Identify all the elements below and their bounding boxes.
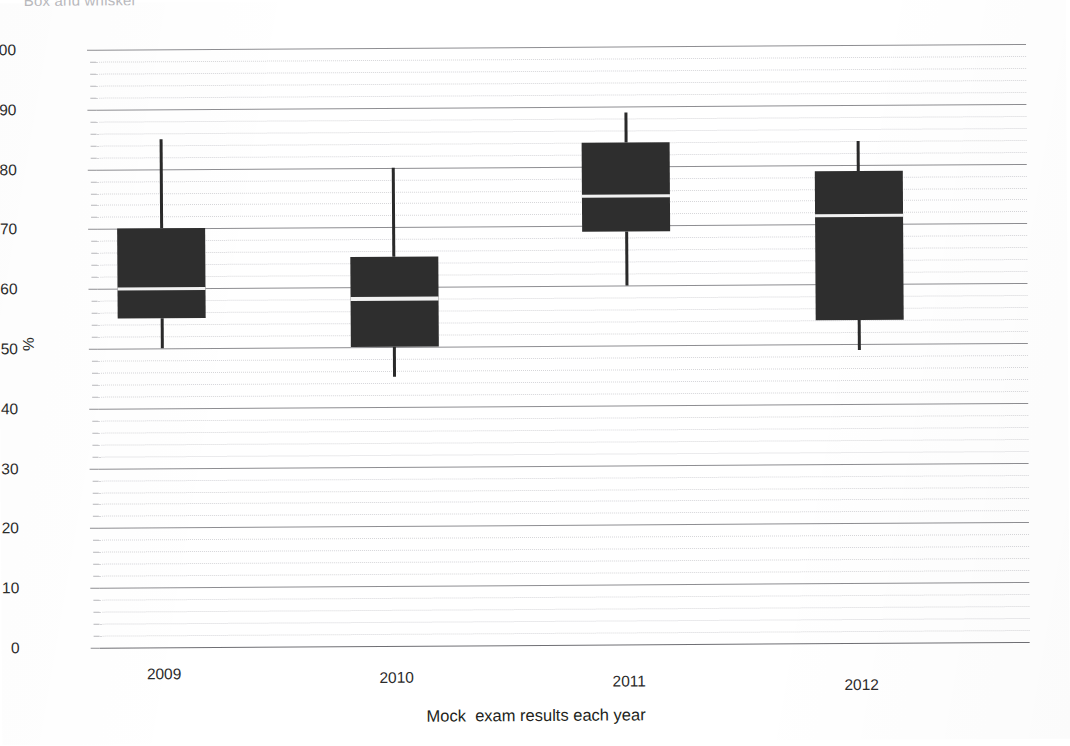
y-axis-tick-mark [91, 265, 97, 266]
y-axis-tick-mark [93, 600, 99, 601]
box-plot-2009 [116, 49, 208, 648]
median-line [815, 213, 903, 217]
y-axis-tick-mark [91, 145, 97, 146]
y-axis-tick-label: 20 [0, 520, 19, 538]
whisker-lower [625, 232, 628, 286]
y-axis-tick-mark [91, 133, 97, 134]
y-axis-tick-mark [91, 181, 97, 182]
whisker-upper [857, 141, 860, 171]
box-iqr [815, 170, 904, 320]
y-axis-tick-mark [88, 169, 97, 170]
y-axis-tick-mark [90, 86, 96, 87]
page-title: Box and whisker [24, 0, 137, 6]
y-axis-tick-mark [90, 62, 96, 63]
y-axis-tick-mark [92, 325, 98, 326]
median-line [118, 287, 206, 291]
whisker-upper [392, 167, 395, 257]
x-axis-tick-labels: 2009201020112012 [0, 0, 1066, 3]
y-axis-tick-mark [92, 444, 98, 445]
x-axis-tick-label: 2011 [612, 672, 645, 690]
y-axis-tick-label: 30 [0, 460, 19, 478]
box-plot-2010 [349, 48, 441, 647]
scanned-chart-page: Box and whisker % 0102030405060708090100… [0, 0, 1070, 745]
y-axis-tick-mark [90, 74, 96, 75]
y-axis-tick-mark [90, 468, 99, 469]
y-axis-tick-label: 60 [0, 280, 18, 298]
y-axis-tick-mark [89, 408, 98, 409]
y-axis-tick-mark [90, 588, 99, 589]
y-axis-tick-mark [92, 361, 98, 362]
y-axis-tick-mark [94, 624, 100, 625]
y-axis-tick-mark [93, 552, 99, 553]
y-axis-tick-mark [88, 289, 97, 290]
y-axis-tick-label: 40 [0, 400, 18, 418]
y-axis-tick-mark [93, 576, 99, 577]
y-axis-tick-label: 90 [0, 101, 16, 119]
y-axis-tick-mark [92, 301, 98, 302]
y-axis-tick-mark [92, 337, 98, 338]
y-axis-tick-mark [93, 456, 99, 457]
y-axis-tick-label: 100 [0, 41, 16, 59]
y-axis-tick-mark [93, 480, 99, 481]
whisker-lower [858, 320, 861, 350]
x-axis-tick-label: 2009 [147, 665, 182, 683]
x-axis-title: Mock exam results each year [2, 703, 1070, 729]
median-line [350, 297, 438, 301]
y-axis-tick-mark [89, 349, 98, 350]
y-axis-tick-label: 0 [0, 639, 20, 657]
y-axis-tick-mark [91, 253, 97, 254]
y-axis-tick-mark [92, 432, 98, 433]
box-iqr [117, 228, 206, 318]
y-axis-tick-mark [90, 97, 96, 98]
y-axis-tick-mark [91, 205, 97, 206]
y-axis-tick-label: 70 [0, 221, 17, 239]
box-plot-2011 [581, 46, 673, 645]
y-axis-tick-label: 10 [0, 579, 19, 597]
y-axis-tick-mark [91, 193, 97, 194]
box-plot-2012 [814, 45, 906, 644]
y-axis-tick-mark [92, 313, 98, 314]
y-axis-tick-mark [91, 157, 97, 158]
whisker-lower [393, 347, 396, 377]
y-axis-tick-mark [87, 50, 96, 51]
gridline-major [100, 642, 1030, 649]
y-axis-title: % [20, 337, 38, 351]
box-iqr [350, 257, 439, 347]
y-axis-tick-mark [93, 564, 99, 565]
y-axis-tick-mark [88, 229, 97, 230]
y-axis-tick-mark [93, 504, 99, 505]
y-axis-tick-mark [91, 217, 97, 218]
y-axis-tick-mark [92, 396, 98, 397]
whisker-lower [161, 318, 164, 348]
y-axis-tick-mark [91, 277, 97, 278]
plot-area: 0102030405060708090100 [96, 44, 1030, 648]
whisker-upper [160, 139, 163, 229]
y-axis-tick-mark [91, 648, 100, 649]
y-axis-tick-mark [90, 121, 96, 122]
y-axis-tick-mark [94, 636, 100, 637]
y-axis-tick-mark [92, 385, 98, 386]
y-axis-tick-label: 80 [0, 161, 17, 179]
x-axis-tick-label: 2012 [844, 676, 879, 694]
y-axis-tick-mark [87, 109, 96, 110]
y-axis-tick-mark [93, 540, 99, 541]
y-axis-tick-mark [91, 241, 97, 242]
y-axis-tick-mark [93, 492, 99, 493]
y-axis-tick-mark [93, 612, 99, 613]
box-iqr [582, 142, 671, 232]
y-axis-tick-label: 50 [0, 340, 18, 358]
y-axis-tick-mark [90, 528, 99, 529]
y-axis-tick-mark [92, 420, 98, 421]
y-axis-tick-mark [93, 516, 99, 517]
median-line [582, 194, 670, 198]
whisker-upper [624, 112, 627, 142]
y-axis-tick-mark [92, 373, 98, 374]
x-axis-tick-label: 2010 [379, 669, 414, 687]
